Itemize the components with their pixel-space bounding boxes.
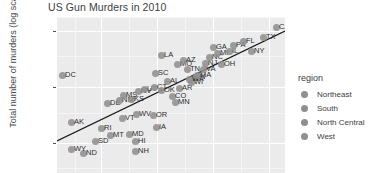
- legend-dot-icon: [301, 105, 308, 112]
- data-point-label: TX: [266, 32, 276, 41]
- legend-item-south[interactable]: South: [297, 101, 387, 115]
- legend-dot-icon: [301, 91, 308, 98]
- data-point-label: NH: [138, 146, 149, 155]
- legend-item-west[interactable]: West: [297, 129, 387, 143]
- data-point-label: SC: [158, 68, 168, 77]
- legend-items: NortheastSouthNorth CentralWest: [297, 87, 387, 143]
- data-point-label: OH: [224, 59, 235, 68]
- y-tick-mark: [53, 87, 56, 88]
- data-point-label: SD: [98, 136, 108, 145]
- legend-title: region: [298, 73, 387, 83]
- legend-label: South: [317, 104, 338, 113]
- legend-item-northeast[interactable]: Northeast: [297, 87, 387, 101]
- data-point-label: MD: [132, 129, 144, 138]
- data-point-label: ND: [86, 148, 97, 157]
- legend-label: Northeast: [317, 90, 352, 99]
- data-point-label: MT: [113, 130, 124, 139]
- data-point-label: MN: [178, 97, 190, 106]
- legend-key: [297, 129, 311, 143]
- data-point-label: RI: [104, 123, 112, 132]
- legend-label: West: [317, 132, 335, 141]
- chart-container: US Gun Murders in 2010 Total number of m…: [0, 0, 390, 173]
- data-point-label: CA: [279, 22, 285, 31]
- data-point-label: AZ: [186, 55, 196, 64]
- data-point-label: FL: [246, 36, 255, 45]
- plot-panel: DCDEAKRIMTVTSDNDWYHINHMDWVIAORNMKSMSNVUT…: [57, 17, 285, 173]
- legend-key: [297, 101, 311, 115]
- legend-key: [297, 87, 311, 101]
- data-point-label: AK: [74, 117, 84, 126]
- legend: region NortheastSouthNorth CentralWest: [297, 73, 387, 143]
- y-tick-mark: [53, 31, 56, 32]
- data-point-label: AL: [170, 76, 179, 85]
- data-point-label: WY: [74, 144, 86, 153]
- legend-dot-icon: [301, 133, 308, 140]
- data-point-label: LA: [164, 50, 173, 59]
- data-point-label: DC: [65, 70, 76, 79]
- y-tick-mark: [53, 143, 56, 144]
- data-point-label: IA: [159, 122, 166, 131]
- legend-key: [297, 115, 311, 129]
- data-point-label: NY: [254, 46, 264, 55]
- legend-item-north-central[interactable]: North Central: [297, 115, 387, 129]
- legend-label: North Central: [317, 118, 365, 127]
- data-point-label: OR: [156, 110, 167, 119]
- legend-dot-icon: [301, 119, 308, 126]
